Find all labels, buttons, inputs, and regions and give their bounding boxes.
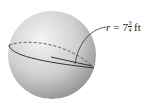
radius-fraction: 3 4 <box>128 20 132 33</box>
fraction-numerator: 3 <box>128 20 132 27</box>
radius-label: r = 7 3 4 ft <box>106 20 141 33</box>
equals-sign: = <box>113 21 119 33</box>
sphere-diagram <box>0 0 148 106</box>
radius-variable: r <box>106 21 110 33</box>
fraction-denominator: 4 <box>129 27 132 33</box>
radius-unit: ft <box>134 21 141 33</box>
